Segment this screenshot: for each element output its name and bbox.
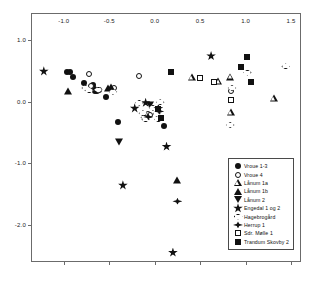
- x-tick-label: -1.0: [58, 18, 69, 24]
- data-point: [107, 83, 115, 90]
- legend-item: Herrup 1: [232, 221, 290, 229]
- legend-item-label: Vroue 1-3: [244, 162, 268, 170]
- legend-marker-icon: [232, 162, 244, 170]
- y-tick: [28, 102, 32, 103]
- legend-marker-icon: [232, 213, 244, 221]
- legend-item-label: Lånum 1a: [244, 179, 268, 187]
- data-point: [168, 248, 178, 258]
- data-point: [158, 115, 164, 121]
- y-tick-label: 0.0: [4, 99, 26, 105]
- data-point: [135, 100, 144, 106]
- legend-item-label: Lånum 1b: [244, 187, 268, 195]
- x-tick: [64, 261, 65, 265]
- data-point: [243, 70, 252, 76]
- legend-item-label: Trandum Skovby 2: [244, 238, 289, 246]
- x-tick: [155, 261, 156, 265]
- x-tick-label: -0.5: [104, 18, 115, 24]
- data-point: [172, 198, 182, 205]
- data-point: [248, 79, 254, 85]
- data-point: [161, 123, 167, 129]
- data-point: [115, 119, 121, 125]
- y-tick: [28, 40, 32, 41]
- legend-marker-icon: [232, 171, 244, 179]
- data-point: [270, 95, 278, 102]
- data-point: [162, 142, 172, 152]
- legend-item: Engedal 1 og 2: [232, 204, 290, 212]
- legend-marker-icon: [232, 238, 244, 246]
- legend-item: Lånum 1b: [232, 187, 290, 195]
- legend-item-label: Hagebrogård: [244, 213, 275, 221]
- data-point: [86, 71, 92, 77]
- data-point: [173, 176, 181, 183]
- legend-marker-icon: [232, 179, 244, 187]
- data-point: [188, 73, 196, 80]
- legend-item-label: Engedal 1 og 2: [244, 204, 280, 212]
- x-tick-label: 1.5: [287, 18, 296, 24]
- data-point: [81, 80, 87, 86]
- data-point: [211, 79, 217, 85]
- chart-legend: Vroue 1-3Vroue 4Lånum 1aLånum 1bLånum 2E…: [228, 158, 294, 250]
- legend-item: Trandum Skovby 2: [232, 238, 290, 246]
- data-point: [228, 97, 234, 103]
- data-point: [70, 74, 76, 80]
- y-tick-label: -2.0: [4, 222, 26, 228]
- data-point: [168, 69, 174, 75]
- legend-item-label: Vroue 4: [244, 171, 263, 179]
- data-point: [226, 73, 234, 80]
- data-points-layer: [32, 14, 300, 49]
- legend-item: Vroue 1-3: [232, 162, 290, 170]
- data-point: [118, 180, 128, 190]
- legend-item-label: Herrup 1: [244, 221, 265, 229]
- legend-item: Sdr. Mølle 1: [232, 229, 290, 237]
- legend-marker-icon: [232, 187, 244, 195]
- legend-item: Lånum 1a: [232, 179, 290, 187]
- data-point: [64, 88, 72, 95]
- x-tick: [200, 261, 201, 265]
- legend-item-label: Lånum 2: [244, 196, 265, 204]
- x-tick: [246, 261, 247, 265]
- data-point: [115, 138, 123, 145]
- x-tick: [109, 261, 110, 265]
- y-tick-label: -1.0: [4, 160, 26, 166]
- legend-marker-icon: [232, 196, 244, 204]
- y-tick-label: 1.0: [4, 37, 26, 43]
- data-point: [226, 122, 235, 128]
- legend-item: Lånum 2: [232, 196, 290, 204]
- scatter-plot-figure: -1.0-0.50.00.51.01.5 1.00.0-1.0-2.0 Vrou…: [0, 0, 317, 281]
- legend-item-label: Sdr. Mølle 1: [244, 229, 273, 237]
- data-point: [206, 51, 216, 61]
- y-tick: [28, 163, 32, 164]
- x-tick-label: 0.5: [196, 18, 205, 24]
- data-point: [227, 109, 235, 116]
- data-point: [103, 94, 109, 100]
- legend-item: Hagebrogård: [232, 212, 290, 220]
- legend-marker-icon: [232, 221, 244, 229]
- x-tick-label: 0.0: [150, 18, 159, 24]
- y-tick: [28, 225, 32, 226]
- data-point: [197, 75, 203, 81]
- data-point: [238, 64, 244, 70]
- data-point: [281, 63, 290, 69]
- data-point: [155, 106, 161, 112]
- data-point: [244, 54, 250, 60]
- x-tick: [291, 261, 292, 265]
- data-point: [39, 66, 49, 76]
- legend-item: Vroue 4: [232, 170, 290, 178]
- legend-marker-icon: [232, 204, 244, 212]
- x-tick-label: 1.0: [241, 18, 250, 24]
- data-point: [156, 99, 165, 105]
- data-point: [136, 73, 142, 79]
- legend-marker-icon: [232, 229, 244, 237]
